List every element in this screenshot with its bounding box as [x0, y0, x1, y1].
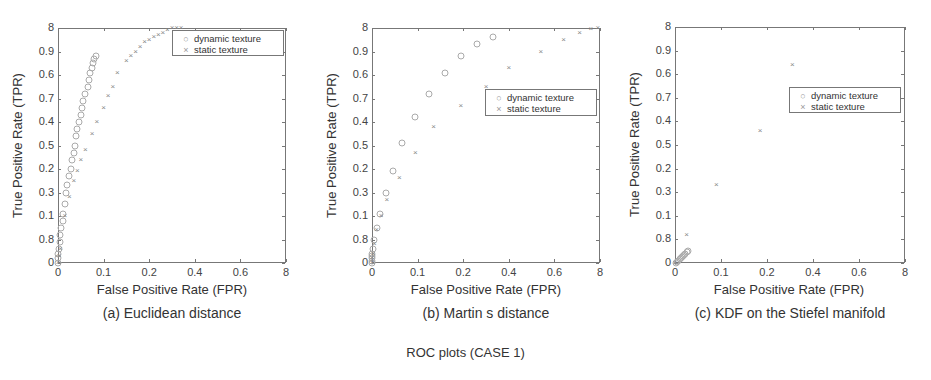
y-tick-label: 0.9 — [338, 45, 368, 57]
y-tick-label: 8 — [338, 21, 368, 33]
x-tick-mark — [509, 259, 510, 262]
x-tick-mark — [286, 28, 287, 31]
data-point-cross: × — [431, 123, 436, 131]
y-tick-mark — [901, 263, 904, 264]
y-tick-mark — [372, 122, 375, 123]
data-point-cross: × — [374, 226, 379, 234]
legend-label: static texture — [811, 101, 865, 112]
data-point-cross: × — [83, 146, 88, 154]
y-tick-label: 0.1 — [641, 209, 671, 221]
y-tick-label: 0.9 — [24, 45, 54, 57]
y-tick-mark — [372, 146, 375, 147]
y-tick-mark — [372, 52, 375, 53]
x-tick-mark — [554, 259, 555, 262]
y-axis-label: True Positive Rate (TPR) — [10, 25, 25, 265]
data-point-circle — [64, 182, 71, 189]
data-point-cross: × — [758, 127, 763, 135]
data-point-circle — [77, 111, 84, 118]
data-point-cross: × — [684, 231, 689, 239]
y-tick-mark — [596, 146, 599, 147]
y-tick-mark — [901, 27, 904, 28]
y-tick-label: 0.2 — [641, 162, 671, 174]
data-point-cross: × — [57, 252, 62, 260]
data-point-circle — [412, 114, 419, 121]
legend-label: dynamic texture — [194, 33, 261, 44]
y-tick-label: 8 — [641, 20, 671, 32]
legend-entry: ○dynamic texture — [494, 92, 592, 103]
x-tick-mark — [767, 259, 768, 262]
data-point-cross: × — [90, 130, 95, 138]
x-tick-label: 8 — [271, 266, 301, 278]
chart-title: (a) Euclidean distance — [22, 305, 322, 321]
data-point-cross: × — [384, 195, 389, 203]
x-tick-mark — [418, 259, 419, 262]
x-tick-mark — [675, 27, 676, 30]
x-tick-mark — [859, 27, 860, 30]
data-point-circle — [92, 53, 99, 60]
data-point-cross: × — [413, 148, 418, 156]
y-tick-mark — [596, 193, 599, 194]
data-point-cross: × — [72, 177, 77, 185]
plot-area — [372, 28, 600, 263]
y-tick-label: 0.7 — [24, 92, 54, 104]
data-point-cross: × — [75, 167, 80, 175]
data-point-circle — [457, 53, 464, 60]
y-tick-label: 0.8 — [641, 232, 671, 244]
x-tick-label: 0.2 — [134, 266, 164, 278]
x-tick-label: 0.1 — [706, 266, 736, 278]
x-tick-mark — [463, 259, 464, 262]
y-tick-mark — [282, 169, 285, 170]
legend-entry: ○dynamic texture — [181, 33, 279, 44]
data-point-circle — [73, 133, 80, 140]
data-point-circle — [426, 90, 433, 97]
y-tick-label: 0.5 — [24, 139, 54, 151]
y-tick-mark — [282, 28, 285, 29]
data-point-cross: × — [506, 64, 511, 72]
legend: ○dynamic texture×static texture — [485, 89, 597, 116]
x-tick-mark — [600, 259, 601, 262]
data-point-cross: × — [397, 174, 402, 182]
data-point-cross: × — [538, 47, 543, 55]
data-point-cross: × — [67, 193, 72, 201]
data-point-cross: × — [561, 36, 566, 44]
y-tick-mark — [675, 216, 678, 217]
data-point-cross: × — [379, 212, 384, 220]
y-tick-label: 0.3 — [24, 186, 54, 198]
x-tick-label: 0.2 — [448, 266, 478, 278]
data-point-circle — [398, 140, 405, 147]
x-tick-mark — [149, 28, 150, 31]
y-tick-label: 0.6 — [338, 68, 368, 80]
y-tick-mark — [282, 99, 285, 100]
y-tick-mark — [596, 263, 599, 264]
x-tick-mark — [905, 259, 906, 262]
data-point-cross: × — [78, 155, 83, 163]
y-tick-label: 0.9 — [641, 44, 671, 56]
x-tick-mark — [813, 27, 814, 30]
data-point-cross: × — [714, 181, 719, 189]
y-tick-label: 8 — [24, 21, 54, 33]
y-tick-label: 0.5 — [338, 139, 368, 151]
y-tick-mark — [282, 193, 285, 194]
data-point-cross: × — [595, 24, 600, 32]
x-tick-mark — [286, 259, 287, 262]
y-tick-mark — [675, 121, 678, 122]
data-point-circle — [441, 69, 448, 76]
y-tick-mark — [282, 263, 285, 264]
legend-entry: ×static texture — [494, 103, 592, 114]
y-tick-mark — [901, 239, 904, 240]
x-tick-mark — [104, 28, 105, 31]
y-tick-mark — [58, 52, 61, 53]
data-point-circle — [80, 97, 87, 104]
y-tick-label: 0.6 — [641, 67, 671, 79]
x-tick-mark — [149, 259, 150, 262]
x-tick-label: 0 — [43, 266, 73, 278]
y-tick-label: 0.4 — [338, 115, 368, 127]
data-point-cross: × — [106, 92, 111, 100]
y-tick-mark — [58, 169, 61, 170]
chart-title: (c) KDF on the Stiefel manifold — [640, 305, 931, 321]
y-tick-label: 0.4 — [24, 115, 54, 127]
data-point-circle — [75, 119, 82, 126]
y-tick-mark — [58, 99, 61, 100]
data-point-cross: × — [56, 259, 61, 267]
y-tick-mark — [372, 75, 375, 76]
